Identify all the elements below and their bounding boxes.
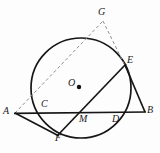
point-label-E: E — [127, 55, 133, 65]
point-label-G: G — [98, 7, 105, 17]
segment-line-AF — [15, 113, 59, 136]
point-label-O: O — [68, 78, 75, 88]
geometry-canvas — [0, 0, 160, 153]
point-label-C: C — [41, 99, 48, 109]
point-label-D: D — [112, 114, 119, 124]
geometry-figure: A B C D E F G M O — [0, 0, 160, 153]
segment-line-AG — [15, 21, 103, 113]
point-label-A: A — [3, 106, 9, 116]
point-label-B: B — [147, 105, 153, 115]
center-dot-icon — [77, 85, 81, 89]
point-label-F: F — [55, 133, 61, 143]
point-label-M: M — [79, 114, 87, 124]
